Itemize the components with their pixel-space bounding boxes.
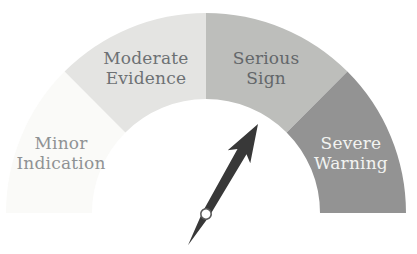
needle-arrow (177, 117, 270, 251)
gauge-segment-label-moderate-evidence: ModerateEvidence (103, 48, 188, 88)
gauge-chart: MinorIndicationModerateEvidenceSeriousSi… (0, 0, 417, 254)
gauge-needle (177, 117, 270, 251)
gauge-svg: MinorIndicationModerateEvidenceSeriousSi… (0, 0, 417, 254)
gauge-segment-label-severe-warning: SevereWarning (314, 133, 388, 173)
